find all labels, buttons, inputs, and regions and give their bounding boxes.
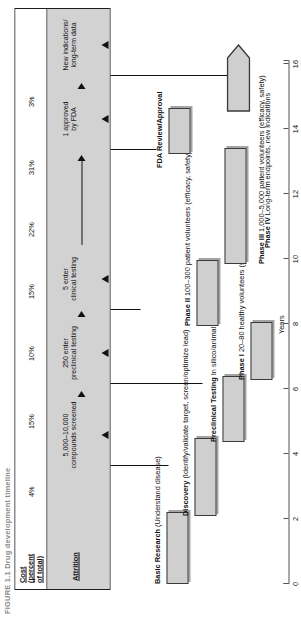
attrition-row: Attrition 5,000–10,000 compounds screene… [47,9,109,589]
x-tick-12 [283,193,288,194]
leader-line-phase-i [110,309,140,310]
figure-rotated-content: FIGURE 1.1 Drug development timeline Cos… [0,0,301,620]
x-tick-label-14: 14 [290,119,299,139]
bar-label-basic-research-rest: (Understand disease) [152,456,161,529]
bar-label-discovery-rest: (Identify/validate target, screen/optimi… [180,329,189,480]
attrition-header: Attrition [71,552,79,581]
cost-header: Cost (percent of total) [18,554,43,583]
bar-label-discovery: Discovery (Identify/validate target, scr… [180,329,189,516]
bar-label-basic-research-bold: Basic Research [152,529,161,584]
attrition-note-approved: 1 approved by FDA [61,87,77,151]
cost-value-fda-review: 3% [26,96,35,107]
attrition-note-screened: 5,000–10,000 compounds screened [61,393,77,477]
x-tick-0 [283,583,288,584]
bar-discovery[interactable] [194,438,216,516]
attrition-arrow-4 [77,83,85,89]
bar-label-fda-review: FDA Review/Approval [154,91,163,168]
bar-label-phase-iv-rest: Long-term endpoints, new indications [262,93,271,217]
x-tick-2 [283,518,288,519]
attrition-arrow-2 [77,311,85,317]
x-tick-6 [283,388,288,389]
bar-phase-i[interactable] [250,322,272,380]
bar-phase-ii[interactable] [196,260,218,326]
bar-label-phase-ii: Phase II 100–300 patient volunteers (eff… [182,152,191,326]
leader-line-phase-iv [110,75,230,76]
bar-basic-research[interactable] [166,512,188,584]
bar-label-preclinical-bold: Preclinical Testing [208,377,217,442]
x-tick-label-6: 6 [290,379,299,399]
x-axis-title: Years [276,315,285,334]
x-tick-14 [283,128,288,129]
bar-label-phase-ii-bold: Phase II [182,298,191,326]
attrition-pointer-2 [101,349,108,357]
bar-label-phase-iv: Phase IV Long-term endpoints, new indica… [262,93,271,248]
attrition-connector-line [81,159,82,245]
figure-canvas: FIGURE 1.1 Drug development timeline Cos… [0,0,301,620]
bar-phase-iv[interactable] [226,44,250,112]
bar-fda-review[interactable] [168,108,190,154]
x-tick-label-12: 12 [290,184,299,204]
cost-row: Cost (percent of total) 4% 15% 10% 15% 2… [15,9,47,589]
x-tick-label-8: 8 [290,314,299,334]
cost-value-phase-ii: 22% [26,222,35,237]
x-axis-cap-right [283,60,288,61]
cost-value-phase-i: 15% [26,284,35,299]
cost-value-preclinical: 10% [26,346,35,361]
bar-label-phase-iv-bold: Phase IV [262,217,271,248]
x-tick-4 [283,453,288,454]
bar-label-fda-review-bold: FDA Review/Approval [154,91,163,168]
attrition-arrow-3 [77,155,85,161]
bar-phase-iii[interactable] [224,148,246,264]
attrition-pointer-3 [101,275,108,283]
x-tick-label-16: 16 [290,54,299,74]
attrition-pointer-5 [101,41,108,49]
info-box: Cost (percent of total) 4% 15% 10% 15% 2… [14,8,110,590]
x-tick-label-10: 10 [290,249,299,269]
x-tick-10 [283,258,288,259]
attrition-note-clinical: 5 enter clinical testing [61,247,77,311]
attrition-note-new-indications: New indications/ long-term data [61,7,77,83]
x-tick-16 [283,63,288,64]
attrition-pointer-1 [101,431,108,439]
bar-label-phase-i-bold: Phase I [236,354,245,380]
cost-value-phase-iii: 31% [26,160,35,175]
figure-title: FIGURE 1.1 Drug development timeline [2,468,11,614]
attrition-note-preclinical: 250 enter preclinical testing [61,315,77,391]
bar-label-discovery-bold: Discovery [180,481,189,516]
attrition-pointer-4 [101,115,108,123]
cost-value-basic-research: 4% [26,486,35,497]
bar-label-basic-research: Basic Research (Understand disease) [152,456,161,584]
attrition-arrow-1 [77,391,85,397]
x-tick-label-0: 0 [290,574,299,594]
x-tick-label-4: 4 [290,444,299,464]
x-tick-label-2: 2 [290,509,299,529]
leader-line-fda [110,149,156,150]
bar-label-phase-ii-rest: 100–300 patient volunteers (efficacy, sa… [182,152,191,298]
bar-preclinical-testing[interactable] [222,376,244,442]
cost-value-discovery: 15% [26,414,35,429]
